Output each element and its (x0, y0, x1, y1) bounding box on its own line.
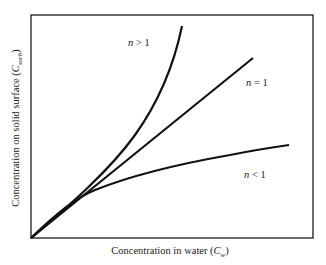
x-axis-label-text: Concentration in water ( (111, 245, 213, 256)
label-n-less-than-1: n < 1 (244, 169, 266, 180)
y-axis-label: Concentration on solid surface (Csorb) (10, 49, 24, 207)
label-n-equal-1: n = 1 (246, 77, 268, 88)
y-axis-sub: sorb (16, 53, 24, 65)
x-axis-label: Concentration in water (Cw) (111, 245, 229, 259)
label-rel: = 1 (251, 77, 267, 88)
curve-n-equal-1 (31, 58, 253, 238)
y-axis-label-text: Concentration on solid surface ( (10, 72, 21, 207)
label-rel: > 1 (133, 37, 149, 48)
curve-n-greater-than-1 (31, 26, 182, 238)
label-rel: < 1 (249, 169, 265, 180)
isotherm-plot (0, 0, 326, 265)
y-axis-close: ) (10, 49, 21, 53)
x-axis-close: ) (225, 245, 229, 256)
curve-n-less-than-1 (31, 145, 289, 238)
label-n-greater-than-1: n > 1 (128, 37, 150, 48)
y-axis-var: C (10, 65, 21, 72)
